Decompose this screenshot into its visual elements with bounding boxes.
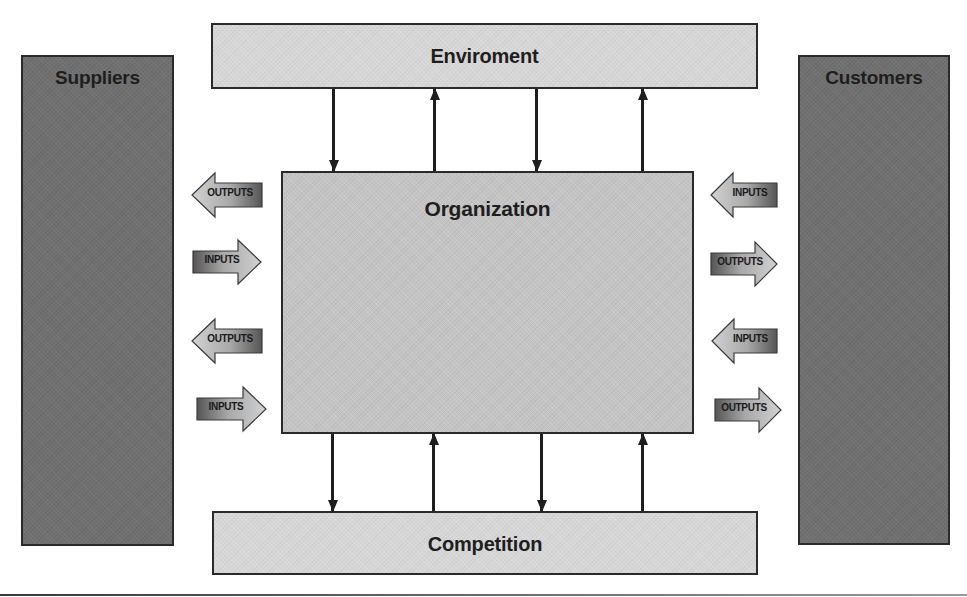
arrow-up-icon <box>638 88 648 100</box>
competition-to-organization-arrow-2 <box>641 434 644 511</box>
customers-box: Customers <box>798 55 950 545</box>
arrow-up-icon <box>638 433 648 445</box>
customers-label: Customers <box>800 67 948 89</box>
flow-label: OUTPUTS <box>201 333 259 344</box>
flow-label: INPUTS <box>724 187 776 198</box>
organization-label: Organization <box>283 197 692 221</box>
suppliers-label: Suppliers <box>23 67 172 89</box>
arrow-down-icon <box>329 160 339 172</box>
supplier-inputs-arrow-2: INPUTS <box>196 386 267 432</box>
customer-outputs-arrow-1: OUTPUTS <box>710 241 778 287</box>
arrow-up-icon <box>430 88 440 100</box>
competition-box: Competition <box>212 511 758 575</box>
flow-label: INPUTS <box>194 254 250 265</box>
supplier-outputs-arrow-1: OUTPUTS <box>191 172 263 218</box>
environment-label: Enviroment <box>213 45 756 68</box>
environment-to-organization-arrow-2 <box>535 89 538 171</box>
flow-label: INPUTS <box>198 401 254 412</box>
organization-box: Organization <box>281 171 694 434</box>
supplier-outputs-arrow-2: OUTPUTS <box>191 318 263 364</box>
supplier-inputs-arrow-1: INPUTS <box>192 239 262 285</box>
organization-to-competition-arrow-1 <box>331 434 334 511</box>
customer-outputs-arrow-2: OUTPUTS <box>714 387 782 433</box>
arrow-down-icon <box>537 500 547 512</box>
customer-inputs-arrow-2: INPUTS <box>711 318 778 364</box>
flow-label: OUTPUTS <box>711 256 769 267</box>
environment-to-organization-arrow-1 <box>332 89 335 171</box>
arrow-down-icon <box>328 500 338 512</box>
flow-label: OUTPUTS <box>715 402 773 413</box>
competition-label: Competition <box>214 533 756 556</box>
organization-to-environment-arrow-2 <box>641 89 644 171</box>
flow-label: INPUTS <box>725 333 776 344</box>
customer-inputs-arrow-1: INPUTS <box>710 172 778 218</box>
organization-to-environment-arrow-1 <box>433 89 436 171</box>
organization-to-competition-arrow-2 <box>540 434 543 511</box>
arrow-down-icon <box>532 160 542 172</box>
arrow-up-icon <box>429 433 439 445</box>
competition-to-organization-arrow-1 <box>432 434 435 511</box>
bottom-divider <box>0 594 967 596</box>
suppliers-box: Suppliers <box>21 55 174 546</box>
environment-box: Enviroment <box>211 23 758 89</box>
flow-label: OUTPUTS <box>201 187 259 198</box>
